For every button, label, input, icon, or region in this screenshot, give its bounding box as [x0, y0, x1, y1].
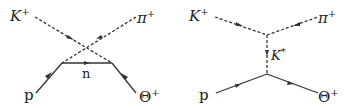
arrow-icon — [236, 22, 243, 26]
arrow-icon — [235, 84, 241, 88]
arrow-icon — [293, 22, 300, 26]
proton-line — [36, 63, 62, 93]
label-theta-2: Θ+ — [318, 88, 339, 105]
arrow-icon — [265, 50, 269, 56]
arrow-icon — [84, 61, 90, 65]
label-proton-2: p — [199, 88, 209, 103]
label-pion-2: π+ — [318, 9, 336, 26]
label-theta: Θ+ — [139, 88, 160, 105]
pion-out-line — [62, 17, 136, 63]
label-kstar: K* — [271, 47, 286, 62]
label-pion: π+ — [137, 9, 155, 26]
diagram-lines — [0, 0, 347, 109]
label-kaon-2: K+ — [189, 7, 209, 24]
label-proton: p — [24, 88, 34, 103]
feynman-diagrams: K+ π+ n p Θ+ K+ π+ K* p Θ+ — [0, 0, 347, 109]
label-neutron: n — [82, 67, 90, 80]
label-kaon: K+ — [10, 7, 30, 24]
kaon-in-line — [35, 17, 112, 63]
pion-out-line-2 — [267, 17, 318, 35]
proton-line-2 — [216, 74, 267, 93]
